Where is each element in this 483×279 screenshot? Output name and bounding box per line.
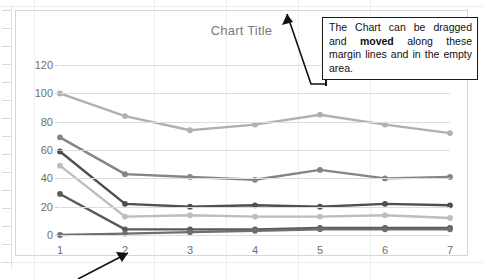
y-axis-tick-mark: [55, 150, 59, 151]
y-axis-tick-mark: [55, 65, 59, 66]
ruler-tick: [2, 208, 11, 209]
data-point[interactable]: [447, 215, 453, 221]
data-point[interactable]: [187, 212, 193, 218]
data-point[interactable]: [252, 214, 258, 220]
data-point[interactable]: [317, 214, 323, 220]
x-axis-tick-label: 5: [317, 244, 323, 256]
ruler-rail: [11, 6, 12, 268]
data-point[interactable]: [122, 171, 128, 177]
ruler-tick: [2, 136, 11, 137]
gridline: [60, 207, 450, 208]
data-point[interactable]: [122, 214, 128, 220]
y-axis-tick-label: 20: [41, 201, 53, 213]
gridline: [60, 93, 450, 94]
ruler-tick: [2, 64, 11, 65]
page-margin-guide-bottom: [0, 262, 483, 263]
x-axis-tick-label: 3: [187, 244, 193, 256]
y-axis-tick-label: 120: [35, 59, 53, 71]
data-point[interactable]: [57, 191, 63, 197]
ruler-tick: [2, 262, 11, 263]
x-axis-tick-label: 7: [447, 244, 453, 256]
y-axis-tick-label: 40: [41, 172, 53, 184]
y-axis-tick-mark: [55, 207, 59, 208]
arrow-to-category-axis: [78, 252, 128, 279]
series-4[interactable]: [57, 163, 453, 221]
x-axis-tick-label: 1: [57, 244, 63, 256]
gridline: [60, 235, 450, 236]
series-2[interactable]: [57, 134, 453, 182]
ruler-tick: [2, 10, 11, 11]
series-1[interactable]: [57, 91, 453, 136]
data-point[interactable]: [122, 113, 128, 119]
gridline: [60, 178, 450, 179]
data-point[interactable]: [57, 163, 63, 169]
data-point[interactable]: [447, 130, 453, 136]
gridline: [60, 122, 450, 123]
ruler-tick: [2, 82, 11, 83]
y-axis-tick-mark: [55, 178, 59, 179]
y-axis-tick-mark: [55, 93, 59, 94]
y-axis-tick-mark: [55, 122, 59, 123]
ruler-tick: [2, 244, 11, 245]
y-axis-tick-label: 100: [35, 87, 53, 99]
ruler-tick: [2, 28, 11, 29]
data-point[interactable]: [252, 228, 258, 234]
data-point[interactable]: [447, 226, 453, 232]
data-point[interactable]: [317, 112, 323, 118]
ruler-tick: [2, 46, 11, 47]
series-line[interactable]: [60, 166, 450, 218]
series-6[interactable]: [57, 226, 453, 237]
x-axis-tick-label: 4: [252, 244, 258, 256]
gridline: [60, 150, 450, 151]
ruler-tick: [2, 118, 11, 119]
data-point[interactable]: [57, 134, 63, 140]
data-point[interactable]: [382, 226, 388, 232]
y-axis-tick-label: 60: [41, 144, 53, 156]
y-axis-tick-label: 0: [47, 229, 53, 241]
data-point[interactable]: [382, 212, 388, 218]
x-axis-tick-label: 2: [122, 244, 128, 256]
x-axis-tick-label: 6: [382, 244, 388, 256]
slide-canvas: Chart Title 0204060801001201234567 The C…: [0, 0, 483, 279]
ruler-tick: [2, 154, 11, 155]
data-point[interactable]: [317, 226, 323, 232]
data-point[interactable]: [187, 127, 193, 133]
ruler-tick: [2, 172, 11, 173]
ruler-tick: [2, 190, 11, 191]
callout-text-bold: moved: [360, 35, 394, 47]
data-point[interactable]: [317, 167, 323, 173]
y-axis-tick-label: 80: [41, 116, 53, 128]
ruler-tick: [2, 226, 11, 227]
series-line[interactable]: [60, 137, 450, 179]
vertical-ruler: [0, 0, 14, 279]
y-axis-tick-mark: [55, 235, 59, 236]
ruler-tick: [2, 100, 11, 101]
callout-box[interactable]: The Chart can be dragged and moved along…: [322, 17, 478, 80]
page-margin-guide-top: [0, 6, 483, 7]
